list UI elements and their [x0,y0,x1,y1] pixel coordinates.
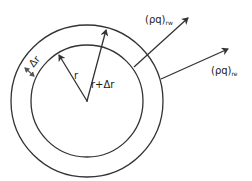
center-point [86,100,88,102]
label-dr: Δr [27,53,43,69]
label-r-plus-dr: r+Δr [91,79,115,90]
radial-shell-diagram: Δr r r+Δr (ρq)rw (ρq)re [0,0,252,181]
radius-r-arrow [59,55,87,101]
radius-r-plus-dr-arrow [87,30,106,101]
label-r: r [74,70,79,81]
label-flux-rw: (ρq)rw [145,14,173,26]
dr-double-arrow [25,68,34,76]
label-flux-re: (ρq)re [211,65,238,77]
flux-rw-arrow [134,18,188,67]
